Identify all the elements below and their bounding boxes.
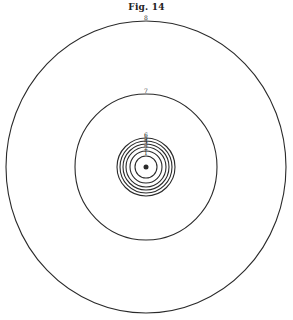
ring-label-6: 6 — [144, 131, 148, 138]
ring-label-8: 8 — [144, 14, 148, 21]
concentric-circles-diagram: 12345678 — [0, 0, 293, 320]
center-dot — [144, 165, 149, 170]
ring-label-7: 7 — [144, 87, 148, 94]
